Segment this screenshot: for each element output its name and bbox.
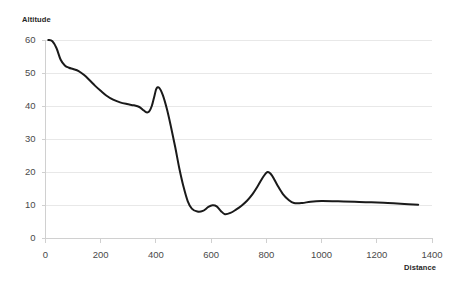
x-axis-title: Distance [404, 263, 436, 272]
x-tick-label-800: 800 [246, 249, 286, 260]
x-tick-label-0: 0 [26, 249, 66, 260]
x-tick-label-200: 200 [81, 249, 121, 260]
x-tick-label-1000: 1000 [302, 249, 342, 260]
y-axis-title: Altitude [22, 15, 51, 24]
y-tick-label-20: 20 [14, 166, 36, 177]
x-tick-label-1200: 1200 [357, 249, 397, 260]
altitude-distance-line-chart [0, 0, 462, 284]
series-line-0 [48, 40, 418, 214]
y-tick-label-40: 40 [14, 100, 36, 111]
y-tick-label-10: 10 [14, 199, 36, 210]
data-series [48, 40, 418, 214]
x-tick-label-1400: 1400 [412, 249, 452, 260]
y-tick-label-0: 0 [14, 232, 36, 243]
x-tick-label-600: 600 [191, 249, 231, 260]
y-tick-label-60: 60 [14, 34, 36, 45]
chart-container: Altitude Distance 6050403020100 02004006… [0, 0, 462, 284]
y-tick-label-50: 50 [14, 67, 36, 78]
x-tick-label-400: 400 [136, 249, 176, 260]
axis-tick-marks [42, 40, 433, 243]
y-tick-label-30: 30 [14, 133, 36, 144]
